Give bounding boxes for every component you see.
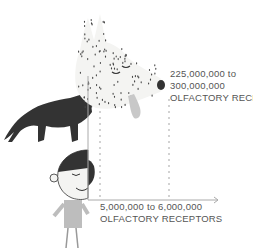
fur-dot bbox=[81, 55, 82, 57]
human-receptor-label: 5,000,000 to 6,000,000 OLFACTORY RECEPTO… bbox=[100, 201, 222, 225]
guide-dot bbox=[168, 165, 170, 167]
fur-dot bbox=[114, 58, 115, 60]
fur-dot bbox=[96, 92, 97, 94]
fur-dot bbox=[87, 40, 88, 42]
fur-dot bbox=[118, 58, 119, 60]
fur-dot bbox=[87, 58, 88, 60]
guide-dot bbox=[168, 153, 170, 155]
fur-dot bbox=[105, 39, 106, 41]
fur-dot bbox=[110, 64, 111, 66]
guide-dot bbox=[168, 111, 170, 113]
fur-dot bbox=[85, 106, 86, 108]
guide-dot bbox=[168, 147, 170, 149]
guide-dot bbox=[99, 153, 101, 155]
fur-dot bbox=[83, 50, 84, 52]
olfactory-infographic: 225,000,000 to 300,000,000 OLFACTORY REC… bbox=[0, 0, 253, 251]
fur-dot bbox=[148, 82, 149, 84]
fur-dot bbox=[108, 102, 109, 104]
fur-dot bbox=[78, 86, 79, 88]
fur-dot bbox=[152, 95, 153, 97]
fur-dot bbox=[102, 99, 103, 101]
fur-dot bbox=[103, 33, 104, 35]
guide-dot bbox=[168, 189, 170, 191]
guide-dot bbox=[99, 147, 101, 149]
fur-dot bbox=[121, 48, 122, 50]
fur-dot bbox=[106, 50, 107, 52]
fur-dot bbox=[96, 74, 97, 76]
fur-dot bbox=[103, 50, 104, 52]
fur-dot bbox=[95, 54, 96, 56]
fur-dot bbox=[132, 76, 133, 78]
fur-dot bbox=[91, 22, 92, 24]
guide-dot bbox=[168, 195, 170, 197]
fur-dot bbox=[84, 33, 85, 35]
guide-dot bbox=[99, 189, 101, 191]
human-hair-side bbox=[88, 160, 95, 186]
human-label-line-1: 5,000,000 to 6,000,000 bbox=[100, 201, 222, 213]
guide-dot bbox=[99, 117, 101, 119]
fur-dot bbox=[111, 67, 112, 69]
fur-dot bbox=[113, 93, 114, 95]
dog-label-line-2: 300,000,000 bbox=[170, 80, 253, 92]
guide-dot bbox=[168, 105, 170, 107]
fur-dot bbox=[121, 99, 122, 101]
guide-dot bbox=[168, 129, 170, 131]
fur-dot bbox=[114, 84, 115, 86]
fur-dot bbox=[125, 104, 126, 106]
fur-dot bbox=[104, 21, 105, 23]
black-dog-silhouette bbox=[4, 94, 92, 142]
fur-dot bbox=[114, 96, 115, 98]
dog-nose bbox=[157, 80, 165, 90]
fur-dot bbox=[104, 48, 105, 50]
fur-dot bbox=[80, 72, 81, 74]
fur-dot bbox=[113, 52, 114, 54]
fur-dot bbox=[93, 65, 94, 67]
guide-dot bbox=[168, 141, 170, 143]
fur-dot bbox=[100, 62, 101, 64]
guide-dot bbox=[99, 177, 101, 179]
fur-dot bbox=[122, 62, 123, 64]
guide-dot bbox=[168, 183, 170, 185]
guide-dot bbox=[99, 159, 101, 161]
guide-dot bbox=[168, 177, 170, 179]
human-right-leg bbox=[76, 228, 78, 248]
fur-dot bbox=[88, 39, 89, 41]
guide-dot bbox=[168, 171, 170, 173]
fur-dot bbox=[90, 87, 91, 89]
fur-dot bbox=[100, 88, 101, 90]
human-shirt bbox=[64, 200, 82, 228]
fur-dot bbox=[117, 81, 118, 83]
fur-dot bbox=[155, 68, 156, 70]
fur-dot bbox=[116, 55, 117, 57]
guide-dot bbox=[99, 141, 101, 143]
fur-dot bbox=[84, 100, 85, 102]
fur-dot bbox=[84, 37, 85, 39]
guide-dot bbox=[168, 159, 170, 161]
fur-dot bbox=[115, 106, 116, 108]
guide-dot bbox=[168, 123, 170, 125]
fur-dot bbox=[100, 50, 101, 52]
fur-dot bbox=[96, 45, 97, 47]
fur-dot bbox=[103, 21, 104, 23]
fur-dot bbox=[99, 40, 100, 42]
fur-dot bbox=[151, 73, 152, 75]
fur-dot bbox=[138, 88, 139, 90]
dog-guide-dotted-line bbox=[168, 99, 170, 197]
fur-dot bbox=[78, 51, 79, 53]
fur-dot bbox=[124, 58, 125, 60]
fur-dot bbox=[104, 101, 105, 103]
guide-dot bbox=[168, 117, 170, 119]
human-ear bbox=[50, 174, 58, 182]
fur-dot bbox=[136, 62, 137, 64]
fur-dot bbox=[130, 63, 131, 65]
fur-dot bbox=[134, 80, 135, 82]
guide-dot bbox=[99, 123, 101, 125]
fur-dot bbox=[154, 64, 155, 66]
fur-dot bbox=[132, 84, 133, 86]
human-label-line-2: OLFACTORY RECEPTORS bbox=[100, 213, 222, 225]
human-guide-dotted-line bbox=[99, 111, 101, 197]
guide-dot bbox=[99, 195, 101, 197]
human-left-leg bbox=[66, 228, 68, 248]
fur-dot bbox=[91, 19, 92, 21]
fur-dot bbox=[149, 69, 150, 71]
